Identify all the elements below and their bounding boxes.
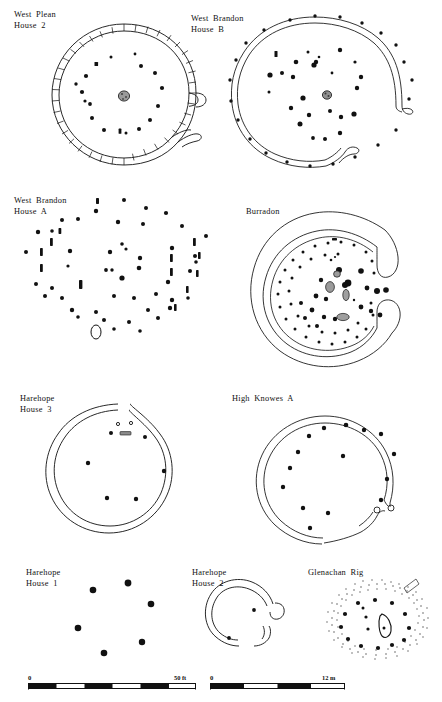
- plan-drawing-west-brandon-house-b: [185, 0, 442, 190]
- stone-features-burradon: [326, 271, 350, 321]
- postholes-west-brandon-a: [24, 198, 208, 333]
- postholes-harehope-house-1: [75, 580, 155, 657]
- scalebar-metres-start-label: 0: [210, 674, 213, 681]
- scalebar-feet-end-label: 50 ft: [174, 674, 186, 681]
- scalebar-feet-start-label: 0: [28, 674, 31, 681]
- panel-west-plean-house-2: West Plean House 2: [0, 0, 200, 180]
- plan-drawing-burradon: [225, 195, 442, 380]
- scalebar-feet: 0 50 ft: [28, 674, 200, 694]
- postholes-ring-burradon: [277, 241, 376, 346]
- plan-drawing-west-brandon-house-a: [0, 186, 215, 376]
- panel-high-knowes-a: High Knowes A: [220, 386, 442, 546]
- hearth-west-brandon-b: [322, 91, 331, 99]
- hearth-slot-harehope-house-3: [120, 432, 131, 435]
- plan-drawing-harehope-house-3: [0, 386, 215, 546]
- scalebar-metres-end-label: 12 m: [322, 674, 335, 681]
- panel-harehope-house-3: Harehope House 3: [0, 386, 215, 546]
- postholes-harehope-house-2: [227, 608, 256, 640]
- panel-harehope-house-2: Harehope House 2: [185, 556, 305, 671]
- oval-feature-west-brandon-a: [91, 325, 101, 339]
- hearth-west-plean: [118, 91, 129, 101]
- plan-drawing-high-knowes-a: [220, 386, 442, 546]
- postholes-glenachan-rig: [339, 598, 411, 650]
- scalebar-metres: 0 12 m: [210, 674, 350, 694]
- entrance-passage-glenachan-rig: [404, 579, 419, 593]
- postholes-high-knowes-a: [281, 423, 396, 531]
- scalebar-feet-graphic: [28, 683, 200, 702]
- panel-glenachan-rig: Glenachan Rig: [300, 556, 442, 671]
- stone-feature-glenachan-rig: [379, 614, 391, 637]
- plan-drawing-harehope-house-1: [0, 556, 190, 671]
- figure-iron-age-house-plans: West Plean House 2: [0, 0, 442, 702]
- plan-drawing-west-plean-house-2: [0, 0, 200, 180]
- postholes-inner-west-brandon-b: [267, 48, 363, 141]
- plan-drawing-glenachan-rig: [300, 556, 442, 671]
- panel-burradon: Burradon: [225, 195, 442, 380]
- plan-drawing-harehope-house-2: [185, 556, 305, 671]
- panel-west-brandon-house-a: West Brandon House A: [0, 186, 215, 376]
- panel-west-brandon-house-b: West Brandon House B: [185, 0, 442, 190]
- panel-harehope-house-1: Harehope House 1: [0, 556, 190, 671]
- scalebar-metres-graphic: [210, 683, 350, 702]
